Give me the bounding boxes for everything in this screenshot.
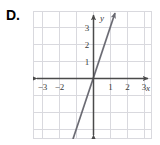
x-tick-label-1: 1 bbox=[108, 82, 113, 92]
x-tick-label-neg3: −3 bbox=[38, 82, 48, 92]
multiple-choice-graph-figure: D. bbox=[0, 0, 160, 145]
y-tick-label-1: 1 bbox=[85, 57, 90, 67]
y-axis-name-label: y bbox=[99, 13, 104, 23]
graph-svg: −3 −2 1 2 3 1 2 3 y x bbox=[33, 11, 152, 139]
x-tick-label-2: 2 bbox=[125, 82, 130, 92]
coordinate-plane: −3 −2 1 2 3 1 2 3 y x bbox=[33, 11, 152, 139]
y-tick-label-3: 3 bbox=[85, 23, 90, 33]
plot-background bbox=[33, 11, 152, 139]
x-tick-label-neg2: −2 bbox=[55, 82, 65, 92]
choice-letter-label: D. bbox=[6, 8, 20, 22]
y-tick-label-2: 2 bbox=[85, 40, 90, 50]
x-axis-name-label: x bbox=[145, 83, 150, 93]
